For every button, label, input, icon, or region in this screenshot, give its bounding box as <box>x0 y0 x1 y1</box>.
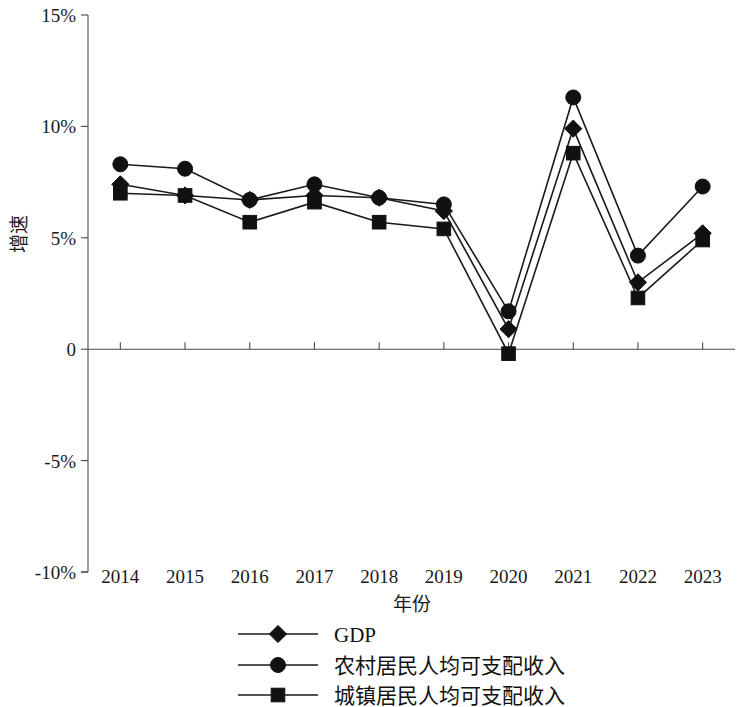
data-point <box>372 215 386 229</box>
series-1 <box>112 120 712 338</box>
series-3 <box>114 146 710 360</box>
x-axis-title: 年份 <box>393 594 431 615</box>
x-axis-tick-label: 2021 <box>554 566 592 587</box>
data-point <box>629 274 646 291</box>
x-axis-tick-label: 2022 <box>619 566 657 587</box>
data-point <box>113 157 128 172</box>
data-point <box>566 146 580 160</box>
y-axis-tick-label: 0 <box>67 339 77 360</box>
legend-item: 农村居民人均可支配收入 <box>238 654 565 678</box>
legend-label: 农村居民人均可支配收入 <box>334 654 565 678</box>
x-axis-tick-label: 2020 <box>490 566 528 587</box>
legend-item: GDP <box>238 623 376 647</box>
legend-item: 城镇居民人均可支配收入 <box>238 684 565 707</box>
line-chart-figure: 15%10%5%0-5%-10%201420152016201720182019… <box>0 0 739 707</box>
data-point <box>502 347 516 361</box>
y-axis-tick-label: -5% <box>44 451 76 472</box>
x-axis-tick-label: 2014 <box>101 566 140 587</box>
data-point <box>114 186 128 200</box>
data-point <box>436 197 451 212</box>
legend-label: 城镇居民人均可支配收入 <box>334 684 565 707</box>
y-axis-title: 增速 <box>9 215 30 253</box>
square-marker-icon <box>271 688 285 702</box>
data-point <box>695 179 710 194</box>
data-point <box>501 304 516 319</box>
y-axis-tick-label: 5% <box>51 228 77 249</box>
data-point <box>243 215 257 229</box>
x-axis-tick-label: 2015 <box>166 566 204 587</box>
x-axis-tick-label: 2023 <box>684 566 722 587</box>
series-line <box>120 153 702 354</box>
diamond-marker-icon <box>269 625 286 642</box>
data-point <box>631 291 645 305</box>
legend-label: GDP <box>334 623 376 647</box>
y-axis-tick-label: 10% <box>41 116 76 137</box>
data-point <box>308 195 322 209</box>
x-axis-tick-label: 2017 <box>295 566 333 587</box>
x-axis-tick-label: 2019 <box>425 566 463 587</box>
data-point <box>242 192 257 207</box>
series-line <box>120 129 702 330</box>
y-axis-tick-label: -10% <box>35 562 76 583</box>
data-point <box>437 222 451 236</box>
data-point <box>178 161 193 176</box>
data-point <box>696 233 710 247</box>
data-point <box>307 177 322 192</box>
y-axis-tick-label: 15% <box>41 5 76 26</box>
chart-canvas: 15%10%5%0-5%-10%201420152016201720182019… <box>0 0 739 707</box>
x-axis-tick-label: 2016 <box>231 566 269 587</box>
data-point <box>372 190 387 205</box>
data-point <box>630 248 645 263</box>
data-point <box>178 189 192 203</box>
circle-marker-icon <box>271 658 286 673</box>
data-point <box>565 120 582 137</box>
x-axis-tick-label: 2018 <box>360 566 398 587</box>
data-point <box>566 90 581 105</box>
